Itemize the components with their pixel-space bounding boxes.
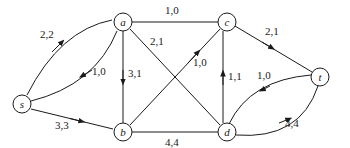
node-b: b (114, 123, 132, 141)
edge-label-a-b: 3,1 (128, 67, 142, 79)
edge-label-s-a: 2,2 (40, 28, 54, 40)
edge-label-a-s: 1,0 (92, 65, 106, 77)
node-label-d: d (224, 126, 230, 138)
node-t: t (311, 68, 329, 86)
node-label-s: s (20, 98, 24, 110)
node-label-a: a (120, 16, 126, 28)
edge-label-d-c: 1,1 (228, 70, 242, 82)
node-label-b: b (120, 126, 126, 138)
flow-network-diagram: 2,2 1,0 3,3 3,1 1,0 2,1 1,0 4,4 1,1 2,1 … (0, 0, 350, 148)
node-s: s (13, 95, 31, 113)
edge-label-a-c: 1,0 (165, 4, 179, 16)
edge-label-s-b: 3,3 (55, 119, 69, 131)
node-d: d (218, 123, 236, 141)
edge-label-t-d: 1,0 (257, 69, 271, 81)
edge-label-d-t: 4,4 (285, 117, 299, 129)
edge-label-c-t: 2,1 (265, 25, 279, 37)
edge-label-b-d: 4,4 (165, 136, 179, 148)
node-a: a (114, 13, 132, 31)
edge-a-s-arrow (82, 70, 92, 76)
edge-c-t-arrow (262, 42, 272, 48)
edge-d-t (236, 86, 318, 135)
edge-s-b-arrow (70, 119, 82, 122)
node-c: c (218, 13, 236, 31)
edge-label-a-d: 2,1 (150, 35, 164, 47)
edge-label-b-c: 1,0 (193, 56, 207, 68)
node-label-c: c (225, 16, 230, 28)
